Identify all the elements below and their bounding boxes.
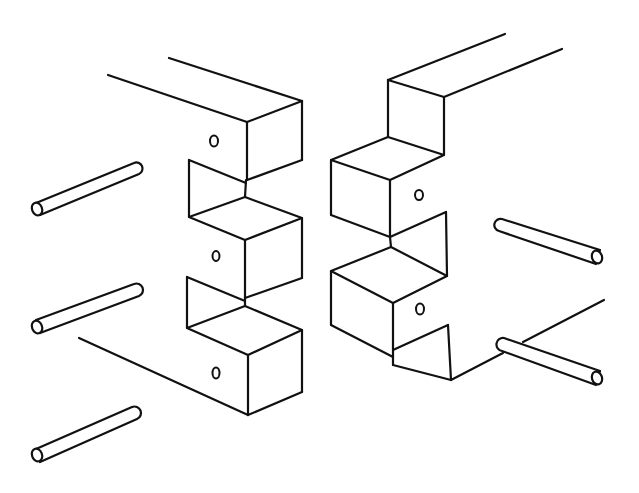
pin	[30, 407, 141, 463]
diagram-canvas: Pinned finger (box) joint, exploded view	[0, 0, 639, 493]
right-member	[331, 34, 604, 380]
pin	[30, 284, 143, 335]
pin	[30, 162, 143, 216]
pin-hole	[416, 304, 424, 315]
pin-hole	[415, 190, 423, 200]
pin-hole	[210, 136, 218, 147]
pin	[494, 219, 603, 265]
pin-hole	[213, 251, 220, 261]
finger-joint-drawing	[0, 0, 639, 493]
left-member	[79, 58, 302, 415]
pin	[496, 338, 603, 386]
pin-hole	[213, 368, 220, 379]
